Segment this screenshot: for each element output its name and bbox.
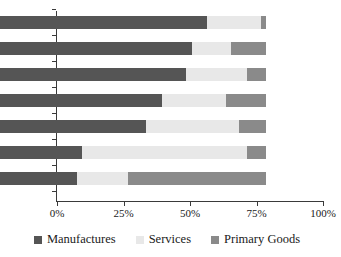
legend-label: Primary Goods	[224, 232, 300, 247]
y-axis-tick	[52, 35, 56, 36]
legend-item-services[interactable]: Services	[136, 232, 191, 247]
bar-row	[0, 94, 266, 107]
legend-swatch-icon	[34, 236, 42, 244]
bar-segment-manufactures	[0, 172, 77, 185]
bar-segment-primary-goods	[261, 16, 266, 29]
bar-segment-services	[77, 172, 128, 185]
bar-segment-services	[186, 68, 247, 81]
x-axis-tick	[57, 202, 58, 206]
x-axis-tick	[124, 202, 125, 206]
bar-segment-manufactures	[0, 146, 82, 159]
bar-row	[0, 42, 266, 55]
legend-swatch-icon	[211, 236, 219, 244]
bar-row	[0, 120, 266, 133]
bar-segment-services	[192, 42, 232, 55]
bar-segment-services	[162, 94, 226, 107]
x-axis-tick	[257, 202, 258, 206]
bar-segment-services	[82, 146, 247, 159]
x-axis-tick-label: 50%	[168, 207, 212, 219]
y-axis-tick	[52, 165, 56, 166]
x-axis-tick-label: 75%	[235, 207, 279, 219]
bar-row	[0, 16, 266, 29]
bar-row	[0, 172, 266, 185]
y-axis-tick	[52, 139, 56, 140]
bar-segment-primary-goods	[247, 68, 266, 81]
bar-segment-services	[207, 16, 260, 29]
bar-segment-services	[146, 120, 239, 133]
bar-segment-primary-goods	[128, 172, 266, 185]
y-axis-tick	[52, 191, 56, 192]
chart-legend: ManufacturesServicesPrimary Goods	[0, 232, 334, 247]
x-axis-tick	[190, 202, 191, 206]
bar-row	[0, 68, 266, 81]
x-axis-tick-label: 100%	[301, 207, 341, 219]
x-axis-tick	[323, 202, 324, 206]
legend-item-manufactures[interactable]: Manufactures	[34, 232, 116, 247]
legend-item-primary-goods[interactable]: Primary Goods	[211, 232, 300, 247]
bar-row	[0, 146, 266, 159]
x-axis-tick-label: 0%	[35, 207, 79, 219]
bar-segment-manufactures	[0, 68, 186, 81]
bar-segment-primary-goods	[247, 146, 266, 159]
x-axis-tick-label: 25%	[102, 207, 146, 219]
bar-segment-primary-goods	[226, 94, 266, 107]
legend-label: Services	[149, 232, 191, 247]
bar-segment-manufactures	[0, 16, 207, 29]
bar-segment-manufactures	[0, 42, 192, 55]
bar-segment-manufactures	[0, 120, 146, 133]
legend-label: Manufactures	[47, 232, 116, 247]
bar-segment-manufactures	[0, 94, 162, 107]
y-axis-tick	[52, 113, 56, 114]
y-axis-tick	[52, 87, 56, 88]
legend-swatch-icon	[136, 236, 144, 244]
y-axis-tick	[52, 61, 56, 62]
y-axis-tick	[52, 9, 56, 10]
bar-segment-primary-goods	[231, 42, 266, 55]
bar-segment-primary-goods	[239, 120, 266, 133]
